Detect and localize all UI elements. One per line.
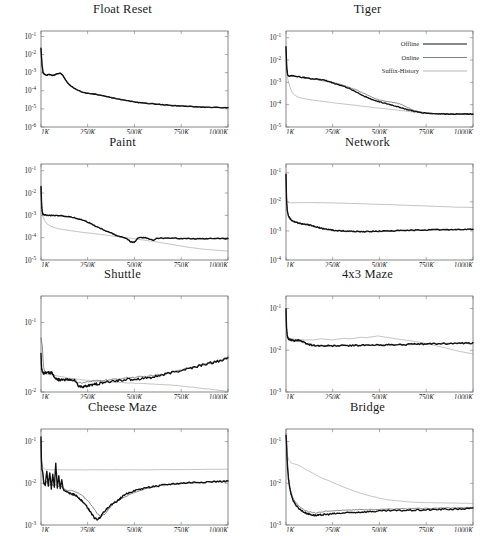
figure-panel-grid: Float Reset1K250K500K750K1000K10-110-210… bbox=[0, 0, 490, 536]
svg-text:10-5: 10-5 bbox=[24, 103, 36, 113]
svg-text:1K: 1K bbox=[286, 527, 296, 532]
series-line-suffix bbox=[286, 176, 473, 208]
svg-text:10-2: 10-2 bbox=[24, 188, 36, 198]
svg-text:10-4: 10-4 bbox=[24, 85, 36, 95]
plot-canvas: 1K250K500K750K1000K10-110-210-310-410-5O… bbox=[245, 0, 490, 134]
series-line-suffix bbox=[41, 357, 228, 392]
series-line-offline bbox=[286, 435, 473, 515]
svg-text:10-4: 10-4 bbox=[24, 232, 36, 242]
series-line-online bbox=[41, 338, 228, 384]
svg-text:10-1: 10-1 bbox=[269, 436, 281, 446]
svg-text:1000K: 1000K bbox=[454, 527, 474, 532]
plot-panel: Paint1K250K500K750K1000K10-110-210-310-4… bbox=[0, 133, 245, 267]
series-line-suffix bbox=[41, 442, 228, 470]
series-line-suffix bbox=[41, 49, 228, 108]
plot-canvas: 1K250K500K750K1000K10-110-210-310-410-5 bbox=[0, 133, 245, 267]
svg-text:10-3: 10-3 bbox=[269, 226, 281, 236]
svg-text:10-5: 10-5 bbox=[269, 122, 281, 132]
svg-text:10-2: 10-2 bbox=[24, 49, 36, 59]
series-line-offline bbox=[286, 309, 473, 347]
svg-text:10-1: 10-1 bbox=[24, 31, 36, 41]
series-line-suffix bbox=[286, 434, 473, 503]
series-line-offline bbox=[286, 174, 473, 232]
svg-text:10-5: 10-5 bbox=[24, 255, 36, 265]
svg-text:250K: 250K bbox=[80, 527, 97, 532]
series-line-online bbox=[41, 440, 228, 517]
series-line-online bbox=[286, 310, 473, 346]
svg-text:10-1: 10-1 bbox=[269, 167, 281, 177]
svg-text:10-1: 10-1 bbox=[269, 303, 281, 313]
legend-label-offline: Offline bbox=[401, 40, 420, 47]
plot-panel: Cheese Maze1K250K500K750K1000K10-110-210… bbox=[0, 398, 245, 532]
series-line-suffix bbox=[286, 49, 473, 114]
svg-text:10-1: 10-1 bbox=[269, 32, 281, 42]
svg-text:1000K: 1000K bbox=[209, 527, 229, 532]
series-line-online bbox=[41, 187, 228, 243]
plot-panel: Network1K250K500K750K1000K10-110-210-310… bbox=[245, 133, 490, 267]
series-line-suffix bbox=[286, 313, 473, 354]
svg-text:10-2: 10-2 bbox=[269, 345, 281, 355]
plot-panel: Tiger1K250K500K750K1000K10-110-210-310-4… bbox=[245, 0, 490, 134]
svg-text:10-2: 10-2 bbox=[269, 478, 281, 488]
series-line-online bbox=[286, 175, 473, 232]
svg-text:10-4: 10-4 bbox=[269, 99, 281, 109]
svg-text:10-1: 10-1 bbox=[24, 317, 36, 327]
svg-text:10-3: 10-3 bbox=[269, 387, 281, 397]
svg-text:750K: 750K bbox=[173, 527, 190, 532]
svg-text:10-2: 10-2 bbox=[269, 55, 281, 65]
svg-text:1K: 1K bbox=[41, 527, 51, 532]
svg-text:500K: 500K bbox=[372, 527, 389, 532]
svg-text:10-2: 10-2 bbox=[269, 196, 281, 206]
svg-text:500K: 500K bbox=[127, 527, 144, 532]
svg-text:10-3: 10-3 bbox=[24, 210, 36, 220]
legend-label-suffix: Suffix-History bbox=[382, 67, 420, 74]
series-line-offline bbox=[41, 186, 228, 242]
series-line-offline bbox=[41, 353, 228, 387]
series-line-online bbox=[286, 433, 473, 513]
svg-text:10-2: 10-2 bbox=[24, 478, 36, 488]
plot-canvas: 1K250K500K750K1000K10-110-210-3 bbox=[245, 398, 490, 532]
plot-panel: Shuttle1K250K500K750K1000K10-110-2 bbox=[0, 265, 245, 399]
svg-text:10-3: 10-3 bbox=[24, 67, 36, 77]
svg-text:10-3: 10-3 bbox=[269, 77, 281, 87]
svg-text:10-1: 10-1 bbox=[24, 165, 36, 175]
svg-text:10-3: 10-3 bbox=[269, 520, 281, 530]
svg-text:10-4: 10-4 bbox=[269, 255, 281, 265]
plot-panel: 4x3 Maze1K250K500K750K1000K10-110-210-3 bbox=[245, 265, 490, 399]
svg-text:10-1: 10-1 bbox=[24, 436, 36, 446]
svg-text:10-6: 10-6 bbox=[24, 122, 36, 132]
plot-canvas: 1K250K500K750K1000K10-110-210-3 bbox=[0, 398, 245, 532]
plot-panel: Float Reset1K250K500K750K1000K10-110-210… bbox=[0, 0, 245, 134]
plot-canvas: 1K250K500K750K1000K10-110-210-310-4 bbox=[245, 133, 490, 267]
svg-text:10-3: 10-3 bbox=[24, 520, 36, 530]
series-line-offline bbox=[41, 48, 228, 108]
plot-canvas: 1K250K500K750K1000K10-110-2 bbox=[0, 265, 245, 399]
legend-label-online: Online bbox=[402, 54, 420, 61]
series-line-online bbox=[41, 48, 228, 108]
plot-panel: Bridge1K250K500K750K1000K10-110-210-3 bbox=[245, 398, 490, 532]
svg-text:10-2: 10-2 bbox=[24, 387, 36, 397]
plot-canvas: 1K250K500K750K1000K10-110-210-310-410-51… bbox=[0, 0, 245, 134]
series-line-offline bbox=[286, 47, 473, 115]
plot-canvas: 1K250K500K750K1000K10-110-210-3 bbox=[245, 265, 490, 399]
svg-text:250K: 250K bbox=[325, 527, 342, 532]
series-line-offline bbox=[41, 437, 228, 520]
svg-text:750K: 750K bbox=[418, 527, 435, 532]
